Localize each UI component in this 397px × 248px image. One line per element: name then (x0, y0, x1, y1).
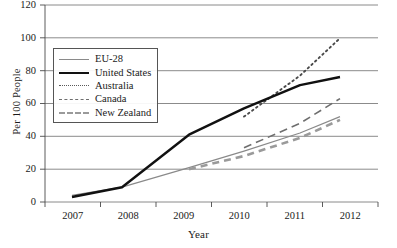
legend-item-australia: Australia (58, 79, 151, 92)
x-tick-label-2010: 2010 (209, 210, 269, 221)
legend-swatch-line-icon (58, 52, 90, 65)
legend-swatch-dotted-line-icon (58, 79, 90, 92)
legend-swatch-line-icon (58, 66, 90, 79)
legend-item-canada: Canada (58, 92, 151, 105)
x-tick-label-2008: 2008 (98, 210, 158, 221)
series-line-australia (244, 38, 340, 116)
y-tick-label-20: 20 (2, 164, 36, 174)
legend-label-canada: Canada (95, 93, 127, 104)
legend-label-australia: Australia (95, 80, 134, 91)
legend-label-eu-28: EU-28 (95, 53, 123, 64)
series-line-canada (244, 99, 340, 148)
x-tick-label-2011: 2011 (265, 210, 325, 221)
x-tick-label-2009: 2009 (154, 210, 214, 221)
legend-item-eu-28: EU-28 (58, 52, 151, 65)
legend-label-united-states: United States (95, 67, 151, 78)
series-line-eu-28 (72, 117, 340, 196)
x-tick-marks (45, 202, 378, 207)
line-chart: 120 100 80 60 40 20 0 2007 2008 2009 201… (0, 0, 397, 248)
y-tick-marks (40, 5, 45, 202)
chart-legend: EU-28 United States Australia Canada New… (53, 48, 158, 123)
legend-item-united-states: United States (58, 65, 151, 78)
legend-swatch-dashed-line-icon (58, 92, 90, 105)
y-tick-label-120: 120 (2, 0, 36, 10)
y-tick-label-0: 0 (2, 197, 36, 207)
legend-swatch-dashed-thick-line-icon (58, 106, 90, 119)
y-axis-title: Per 100 People (11, 42, 22, 162)
legend-label-new-zealand: New Zealand (95, 107, 151, 118)
x-axis-title: Year (0, 228, 397, 240)
x-tick-label-2007: 2007 (43, 210, 103, 221)
legend-item-new-zealand: New Zealand (58, 106, 151, 119)
x-tick-label-2012: 2012 (320, 210, 380, 221)
